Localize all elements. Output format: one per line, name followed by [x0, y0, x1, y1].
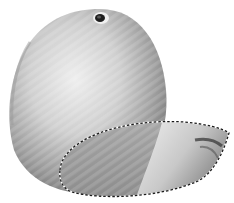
image-canvas: grayscale orange with elliptical selecti…: [0, 0, 234, 203]
stem-icon: [93, 12, 109, 24]
